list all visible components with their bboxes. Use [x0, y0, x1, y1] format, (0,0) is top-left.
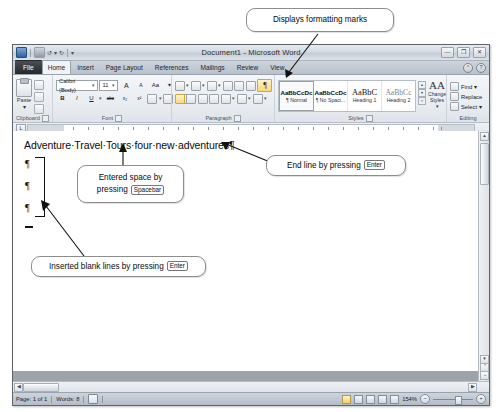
font-name-caret[interactable]: ▾	[92, 81, 95, 90]
tab-file[interactable]: File	[15, 60, 42, 74]
view-draft-button[interactable]	[390, 395, 399, 404]
increase-indent-icon[interactable]	[234, 81, 244, 91]
group-label-clipboard: Clipboard	[16, 114, 40, 122]
styles-more-icon[interactable]: ▿	[418, 97, 426, 105]
style-item-no-spacing[interactable]: AaBbCcDc ¶ No Spaci...	[314, 81, 348, 111]
tab-insert[interactable]: Insert	[71, 60, 100, 74]
horizontal-scroll-thumb[interactable]	[23, 383, 59, 392]
change-case-button[interactable]: Aa	[149, 80, 162, 91]
strikethrough-button[interactable]: abc	[104, 93, 117, 104]
tab-references[interactable]: References	[149, 60, 195, 74]
shading-icon[interactable]	[237, 94, 247, 104]
tab-home[interactable]: Home	[42, 60, 72, 74]
grow-font-button[interactable]: A	[120, 80, 133, 91]
styles-scroll-down-icon[interactable]: ▾	[418, 89, 426, 97]
shrink-font-button[interactable]: A	[134, 80, 147, 91]
styles-gallery-nav[interactable]: ▴ ▾ ▿	[417, 80, 427, 106]
numbering-caret[interactable]: ▾	[202, 83, 205, 88]
horizontal-scrollbar[interactable]: ◀ ▶	[13, 381, 489, 392]
line-spacing-caret[interactable]: ▾	[232, 96, 235, 101]
view-web-layout-button[interactable]	[366, 395, 375, 404]
view-print-layout-button[interactable]	[342, 395, 351, 404]
borders-icon[interactable]	[253, 94, 263, 104]
multilevel-caret[interactable]: ▾	[218, 83, 221, 88]
multilevel-list-icon[interactable]	[207, 81, 217, 91]
zoom-slider-handle[interactable]	[455, 396, 462, 405]
align-right-icon[interactable]	[198, 94, 208, 104]
paragraph-dialog-launcher[interactable]	[234, 115, 241, 122]
tab-page-layout[interactable]: Page Layout	[100, 60, 149, 74]
clipboard-dialog-launcher[interactable]	[42, 115, 49, 122]
shading-caret[interactable]: ▾	[248, 96, 251, 101]
styles-gallery[interactable]: AaBbCcDc ¶ Normal AaBbCcDc ¶ No Spaci...…	[278, 80, 416, 112]
collapse-ribbon-icon[interactable]: ^	[463, 63, 473, 73]
vertical-scrollbar[interactable]: ▲ ▼ ⌃ ⌄	[478, 131, 489, 381]
word-count[interactable]: Words: 8	[56, 396, 79, 402]
callout-inserted-blank-lines-text: Inserted blank lines by pressing	[49, 261, 164, 273]
underline-caret[interactable]: ▾	[99, 96, 102, 101]
bullets-caret[interactable]: ▾	[186, 83, 189, 88]
style-preview-normal: AaBbCcDc	[280, 88, 312, 97]
bold-button[interactable]: B	[56, 93, 69, 104]
font-dialog-launcher[interactable]	[115, 115, 122, 122]
align-center-icon[interactable]	[186, 94, 196, 104]
restore-button[interactable]: ❐	[457, 47, 470, 58]
vertical-scroll-thumb[interactable]	[480, 143, 489, 185]
select-label: Select ▾	[461, 104, 482, 110]
sort-icon[interactable]	[246, 81, 256, 91]
tab-mailings[interactable]: Mailings	[194, 60, 230, 74]
numbering-icon[interactable]	[191, 81, 201, 91]
scroll-left-icon[interactable]: ◀	[14, 383, 23, 392]
justify-icon[interactable]	[209, 94, 219, 104]
zoom-out-button[interactable]: −	[420, 394, 430, 404]
cut-icon[interactable]	[34, 80, 44, 90]
align-left-icon[interactable]	[175, 94, 185, 104]
styles-dialog-launcher[interactable]	[366, 115, 373, 122]
proofing-errors-icon[interactable]	[88, 394, 98, 404]
subscript-button[interactable]: x₂	[118, 93, 131, 104]
leader-line-end-line	[218, 140, 272, 166]
copy-icon[interactable]	[34, 92, 44, 102]
style-item-heading-1[interactable]: AaBbC Heading 1	[348, 81, 382, 111]
style-item-heading-2[interactable]: AaBbCc Heading 2	[382, 81, 415, 111]
font-name-combo[interactable]: Calibri (Body) ▾	[56, 80, 98, 91]
minimize-button[interactable]: —	[441, 47, 454, 58]
select-button[interactable]: Select ▾	[450, 102, 482, 111]
format-painter-icon[interactable]	[34, 104, 44, 114]
decrease-indent-icon[interactable]	[223, 81, 233, 91]
scroll-right-icon[interactable]: ▶	[468, 383, 477, 392]
underline-button[interactable]: U	[85, 93, 98, 104]
tab-review[interactable]: Review	[231, 60, 265, 74]
paste-button[interactable]: Paste ▾	[16, 79, 32, 111]
zoom-in-button[interactable]: +	[476, 394, 486, 404]
find-button[interactable]: Find ▾	[450, 82, 482, 91]
zoom-slider[interactable]	[433, 396, 473, 403]
change-styles-button[interactable]: AA Change Styles ▾	[428, 80, 446, 109]
next-page-icon[interactable]: ⌄	[480, 371, 489, 380]
replace-button[interactable]: Replace	[450, 92, 482, 101]
bullets-icon[interactable]	[175, 81, 185, 91]
italic-button[interactable]: I	[70, 93, 83, 104]
callout-displays-formatting-marks: Displays formatting marks	[246, 8, 394, 32]
borders-caret[interactable]: ▾	[264, 96, 267, 101]
style-item-normal[interactable]: AaBbCcDc ¶ Normal	[279, 81, 314, 111]
superscript-button[interactable]: x²	[133, 93, 146, 104]
view-full-screen-reading-button[interactable]	[354, 395, 363, 404]
help-icon[interactable]: ?	[476, 63, 486, 73]
close-button[interactable]: ✕	[473, 47, 486, 58]
ribbon: Paste ▾ Clipboard	[13, 75, 489, 123]
font-size-combo[interactable]: 11 ▾	[99, 80, 118, 91]
line-spacing-icon[interactable]	[221, 94, 231, 104]
paste-caret[interactable]: ▾	[23, 104, 26, 111]
ribbon-tab-strip[interactable]: File Home Insert Page Layout References …	[13, 61, 489, 75]
text-effects-caret[interactable]: ▾	[159, 96, 162, 101]
scroll-up-icon[interactable]: ▲	[480, 132, 489, 141]
view-outline-button[interactable]	[378, 395, 387, 404]
page-indicator[interactable]: Page: 1 of 1	[16, 396, 47, 402]
zoom-level-label[interactable]: 154%	[402, 396, 417, 402]
show-formatting-marks-button[interactable]: ¶	[257, 79, 272, 92]
styles-scroll-up-icon[interactable]: ▴	[418, 81, 426, 89]
font-size-caret[interactable]: ▾	[112, 81, 115, 90]
text-effects-icon[interactable]	[147, 94, 157, 104]
window-buttons[interactable]: — ❐ ✕	[441, 47, 486, 58]
